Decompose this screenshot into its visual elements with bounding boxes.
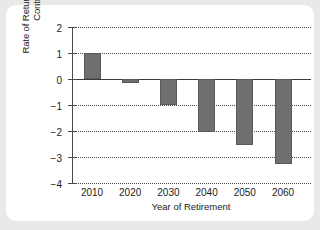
y-tick-label-neg4: −4 [51, 179, 62, 190]
x-tick-label-2060: 2060 [272, 187, 294, 198]
bar-2020 [122, 79, 139, 83]
bar-2010 [84, 53, 101, 79]
y-tick-label-0: 0 [56, 75, 62, 86]
y-tick-label-neg3: −3 [51, 153, 62, 164]
y-tick-label-neg1: −1 [51, 101, 62, 112]
y-axis-title: Rate of Return on Social Security Contri… [8, 0, 54, 65]
y-tick-0: 0 [68, 79, 77, 80]
x-tick-label-2010: 2010 [81, 187, 103, 198]
gridline-2 [72, 27, 311, 28]
y-tick-label-2: 2 [56, 23, 62, 34]
gridline-neg4 [72, 183, 311, 184]
bar-2040 [198, 79, 215, 132]
bar-2030 [160, 79, 177, 105]
plot-area: 2 1 0 −1 −2 −3 −4 20102020203020 [72, 27, 311, 183]
chart-card: Rate of Return on Social Security Contri… [6, 5, 314, 221]
bar-2050 [236, 79, 253, 145]
x-tick-label-2020: 2020 [119, 187, 141, 198]
y-tick-neg1: −1 [68, 105, 77, 106]
x-tick-label-2050: 2050 [234, 187, 256, 198]
y-tick-1: 1 [68, 53, 77, 54]
gridline-1 [72, 53, 311, 54]
y-tick-neg4: −4 [68, 183, 77, 184]
x-axis-title: Year of Retirement [66, 201, 316, 212]
bar-2060 [275, 79, 292, 164]
y-tick-2: 2 [68, 27, 77, 28]
y-tick-neg3: −3 [68, 157, 77, 158]
y-tick-label-1: 1 [56, 49, 62, 60]
y-tick-neg2: −2 [68, 131, 77, 132]
y-tick-label-neg2: −2 [51, 127, 62, 138]
x-tick-label-2030: 2030 [157, 187, 179, 198]
figure-root: Rate of Return on Social Security Contri… [0, 0, 320, 230]
x-tick-label-2040: 2040 [195, 187, 217, 198]
